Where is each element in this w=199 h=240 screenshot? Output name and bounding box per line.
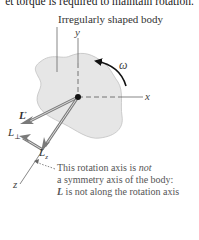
omega-label: ω (119, 58, 127, 73)
L-vector-arrow-icon: → (20, 107, 28, 116)
caption-pointer (37, 162, 55, 169)
y-axis-label: y (75, 26, 80, 38)
x-axis-label: x (145, 90, 150, 102)
caption-line-1: This rotation axis is not (57, 162, 151, 174)
z-axis-label: z (13, 178, 17, 190)
L-z-label: Lz (39, 146, 48, 161)
pivot-point (75, 94, 81, 100)
L-perp-label: L⊥ (8, 126, 21, 141)
caption-line-2: a symmetry axis of the body: (57, 174, 173, 186)
caption-line-3: L is not along the rotation axis (57, 186, 179, 198)
